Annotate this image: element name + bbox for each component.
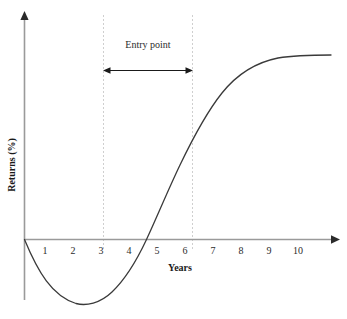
entry-point-label: Entry point bbox=[125, 39, 170, 50]
x-tick-label-6: 6 bbox=[183, 245, 188, 256]
x-tick-label-9: 9 bbox=[267, 245, 272, 256]
x-tick-label-2: 2 bbox=[71, 245, 76, 256]
x-tick-label-7: 7 bbox=[211, 245, 216, 256]
x-tick-label-4: 4 bbox=[127, 245, 132, 256]
x-axis-title: Years bbox=[168, 262, 192, 273]
x-tick-label-5: 5 bbox=[155, 245, 160, 256]
x-tick-label-1: 1 bbox=[43, 245, 48, 256]
chart-figure: Entry point 1 2 3 4 5 6 7 8 9 10 Years R… bbox=[0, 0, 347, 319]
returns-vs-years-line-chart: Entry point 1 2 3 4 5 6 7 8 9 10 Years R… bbox=[0, 0, 347, 319]
x-tick-label-8: 8 bbox=[239, 245, 244, 256]
y-axis-title: Returns (%) bbox=[6, 138, 18, 192]
x-tick-label-3: 3 bbox=[99, 245, 104, 256]
x-tick-label-10: 10 bbox=[293, 245, 303, 256]
